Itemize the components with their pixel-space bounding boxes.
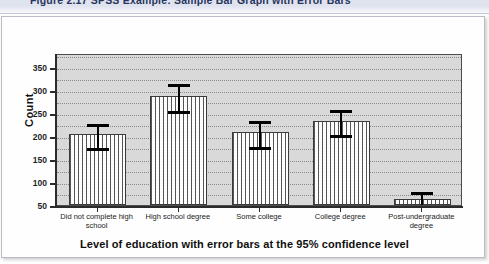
gridline-minor: [57, 80, 461, 81]
error-bar-cap-upper: [330, 110, 352, 113]
y-tick: [50, 206, 56, 208]
error-bar-stem: [178, 84, 180, 112]
error-bar: [78, 124, 118, 148]
y-tick-label: 100: [33, 178, 47, 188]
x-category-label: College degree: [296, 213, 385, 222]
gridline-minor: [57, 103, 461, 104]
error-bar-cap-upper: [168, 84, 190, 87]
error-bar-cap-lower: [87, 148, 109, 151]
gridline-minor: [57, 57, 461, 58]
x-category-label: Post-undergraduate degree: [377, 213, 466, 230]
error-bar: [159, 84, 199, 112]
gridline: [57, 115, 461, 116]
error-bar-cap-lower: [168, 111, 190, 114]
error-bar-cap-upper: [87, 124, 109, 127]
y-tick-label: 150: [33, 155, 47, 165]
y-tick: [50, 114, 56, 116]
x-category-label: Did not complete high school: [52, 213, 141, 230]
x-category-label: High school degree: [133, 213, 222, 222]
figure-caption-band: Figure 2.17 SPSS Example: Sample Bar Gra…: [0, 0, 489, 14]
gridline: [57, 92, 461, 93]
y-axis-title: Count: [23, 75, 35, 145]
y-tick: [50, 68, 56, 70]
y-tick-label: 50: [38, 201, 47, 211]
y-tick: [50, 137, 56, 139]
x-category-label: Some college: [214, 213, 303, 222]
error-bar-cap-upper: [249, 121, 271, 124]
error-bar: [321, 110, 361, 135]
y-tick: [50, 160, 56, 162]
caption-fade-overlay: [0, 6, 489, 13]
y-tick-label: 350: [33, 63, 47, 73]
error-bar-stem: [97, 124, 99, 148]
error-bar: [402, 192, 442, 206]
error-bar: [240, 121, 280, 146]
gridline: [57, 69, 461, 70]
x-axis-title: Level of education with error bars at th…: [0, 238, 489, 250]
plot-area: [56, 54, 462, 206]
figure-container: 50100150200250300350 Count Did not compl…: [0, 14, 489, 264]
bar-chart: 50100150200250300350 Count Did not compl…: [0, 14, 489, 264]
y-tick: [50, 91, 56, 93]
error-bar-cap-upper: [411, 192, 433, 195]
error-bar-stem: [340, 110, 342, 135]
error-bar-cap-lower: [330, 135, 352, 138]
y-tick: [50, 183, 56, 185]
error-bar-cap-lower: [249, 147, 271, 150]
error-bar-stem: [259, 121, 261, 146]
